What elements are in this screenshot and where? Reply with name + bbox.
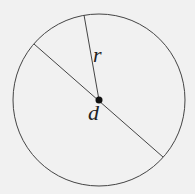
diameter-label: d <box>88 100 100 125</box>
circle-diagram: r d <box>0 0 195 194</box>
radius-label: r <box>93 42 102 67</box>
